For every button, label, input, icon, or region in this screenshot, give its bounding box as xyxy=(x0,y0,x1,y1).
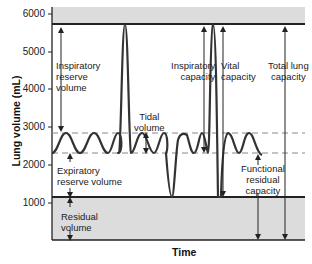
tlc-band xyxy=(52,7,305,24)
erv-label: Expiratoryreserve volume xyxy=(57,165,122,187)
y-tick-1000: 1000 xyxy=(15,197,45,208)
irv-label: Inspiratoryreservevolume xyxy=(56,60,100,93)
vc-label: Vitalcapacity xyxy=(221,60,256,82)
y-axis-title: Lung volume (mL) xyxy=(10,71,22,171)
y-tick-6000: 6000 xyxy=(15,8,45,19)
x-axis-title: Time xyxy=(172,246,196,258)
lung-volume-diagram: 6000 5000 4000 3000 2000 1000 Lung volum… xyxy=(0,0,312,264)
tlc-label: Total lungcapacity xyxy=(268,60,309,82)
frc-label: Functionalresidualcapacity xyxy=(241,163,285,196)
ic-label: Inspiratorycapacity xyxy=(171,60,215,82)
y-tick-5000: 5000 xyxy=(15,46,45,57)
rv-label: Residualvolume xyxy=(61,211,98,233)
tidal-label: Tidalvolume xyxy=(134,111,165,133)
